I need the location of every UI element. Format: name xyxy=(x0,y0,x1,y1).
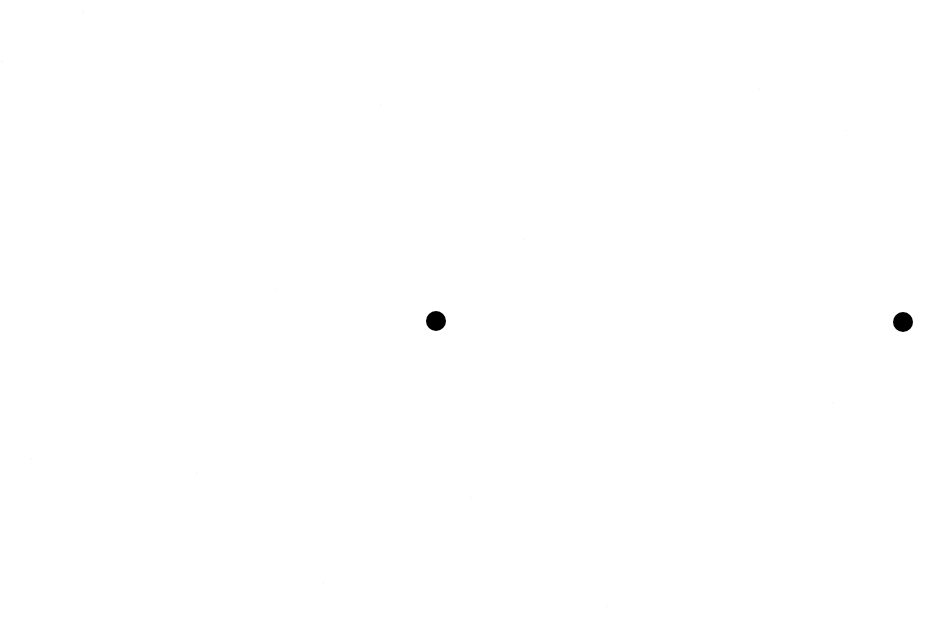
scatter-point-left xyxy=(426,311,446,331)
scatter-point-right xyxy=(893,312,913,332)
page-canvas xyxy=(0,0,939,637)
paper-grain-texture xyxy=(0,0,939,637)
